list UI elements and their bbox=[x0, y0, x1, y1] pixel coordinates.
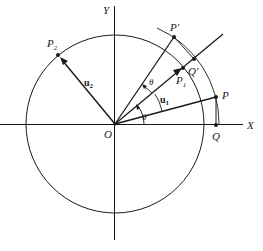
segment-P-prime-Q-prime bbox=[174, 37, 194, 59]
u2-arrowhead-icon bbox=[60, 57, 68, 65]
point-P-prime bbox=[172, 35, 176, 39]
point-Q-prime bbox=[192, 57, 196, 61]
rotation-diagram: Y X O P Q P′ Q′ P1 P2 u1 u2 θ θ bbox=[0, 0, 263, 251]
origin-label: O bbox=[104, 128, 112, 140]
point-O bbox=[113, 122, 116, 125]
vector-u2 bbox=[62, 60, 115, 124]
label-P1: P1 bbox=[175, 74, 186, 89]
u1-axis-line bbox=[115, 34, 223, 124]
point-P bbox=[214, 95, 218, 99]
label-u1: u1 bbox=[160, 94, 170, 107]
theta-upper-label: θ bbox=[149, 77, 154, 87]
label-P-prime: P′ bbox=[169, 21, 180, 33]
point-P2 bbox=[56, 53, 60, 57]
theta-lower-label: θ bbox=[142, 112, 147, 122]
point-Q bbox=[214, 123, 218, 127]
label-Q-prime: Q′ bbox=[188, 65, 199, 77]
x-axis-label: X bbox=[246, 119, 255, 131]
label-P: P bbox=[221, 89, 229, 101]
label-Q: Q bbox=[212, 130, 220, 142]
point-P1 bbox=[181, 66, 185, 70]
label-P2: P2 bbox=[46, 37, 58, 52]
y-axis-label: Y bbox=[103, 4, 111, 16]
